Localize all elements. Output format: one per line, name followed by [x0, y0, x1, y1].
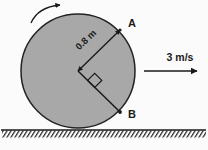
point-marker-b [118, 110, 122, 114]
point-label-b: B [128, 108, 136, 120]
velocity-label: 3 m/s [167, 51, 194, 63]
ground-hatching [2, 131, 206, 138]
point-marker-a [118, 28, 121, 31]
diagram-svg: 0.8 m A B 3 m/s [0, 0, 208, 150]
point-label-a: A [128, 17, 136, 29]
physics-diagram-canvas: 0.8 m A B 3 m/s [0, 0, 208, 150]
